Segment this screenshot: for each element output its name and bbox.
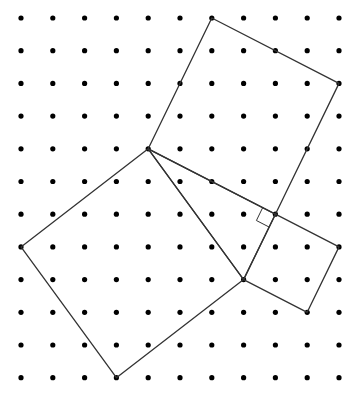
grid-dot	[273, 15, 278, 20]
grid-dot	[241, 48, 246, 53]
grid-dot	[241, 15, 246, 20]
pythagorean-dot-grid-diagram	[0, 0, 361, 398]
grid-dot	[209, 277, 214, 282]
grid-dot	[50, 310, 55, 315]
grid-dot	[177, 48, 182, 53]
grid-dot	[241, 212, 246, 217]
dot-grid	[18, 15, 341, 380]
grid-dot	[177, 15, 182, 20]
grid-dot	[273, 81, 278, 86]
grid-dot	[273, 244, 278, 249]
grid-dot	[82, 81, 87, 86]
grid-dot	[146, 375, 151, 380]
grid-dot	[177, 277, 182, 282]
grid-dot	[18, 342, 23, 347]
grid-dot	[114, 114, 119, 119]
grid-dot	[209, 81, 214, 86]
grid-dot	[18, 179, 23, 184]
grid-dot	[305, 212, 310, 217]
grid-dot	[241, 375, 246, 380]
grid-dot	[18, 277, 23, 282]
grid-dot	[114, 212, 119, 217]
grid-dot	[146, 277, 151, 282]
grid-dot	[241, 179, 246, 184]
grid-dot	[209, 146, 214, 151]
grid-dot	[114, 244, 119, 249]
grid-dot	[177, 310, 182, 315]
grid-dot	[305, 277, 310, 282]
grid-dot	[146, 244, 151, 249]
grid-dot	[336, 15, 341, 20]
grid-dot	[273, 277, 278, 282]
grid-dot	[82, 212, 87, 217]
grid-dot	[177, 212, 182, 217]
grid-dot	[273, 310, 278, 315]
grid-dot	[241, 342, 246, 347]
grid-dot	[82, 375, 87, 380]
grid-dot	[209, 48, 214, 53]
grid-dot	[82, 179, 87, 184]
grid-dot	[241, 244, 246, 249]
grid-dot	[177, 375, 182, 380]
grid-dot	[82, 146, 87, 151]
grid-dot	[114, 48, 119, 53]
grid-dot	[305, 375, 310, 380]
grid-dot	[209, 375, 214, 380]
grid-dot	[336, 342, 341, 347]
grid-dot	[241, 81, 246, 86]
grid-dot	[336, 277, 341, 282]
grid-dot	[146, 15, 151, 20]
grid-dot	[209, 212, 214, 217]
grid-dot	[18, 114, 23, 119]
grid-dot	[114, 146, 119, 151]
grid-dot	[18, 81, 23, 86]
grid-dot	[273, 114, 278, 119]
grid-dot	[50, 375, 55, 380]
grid-dot	[336, 114, 341, 119]
grid-dot	[241, 114, 246, 119]
grid-dot	[114, 179, 119, 184]
grid-dot	[305, 244, 310, 249]
grid-dot	[209, 310, 214, 315]
grid-dot	[82, 310, 87, 315]
grid-dot	[82, 277, 87, 282]
grid-dot	[82, 342, 87, 347]
grid-dot	[18, 146, 23, 151]
grid-dot	[146, 342, 151, 347]
grid-dot	[177, 114, 182, 119]
grid-dot	[209, 114, 214, 119]
grid-dot	[18, 212, 23, 217]
grid-dot	[146, 114, 151, 119]
grid-dot	[114, 81, 119, 86]
grid-dot	[305, 342, 310, 347]
grid-dot	[114, 15, 119, 20]
grid-dot	[82, 48, 87, 53]
grid-dot	[336, 179, 341, 184]
grid-dot	[305, 15, 310, 20]
grid-dot	[177, 179, 182, 184]
grid-dot	[82, 15, 87, 20]
grid-dot	[50, 146, 55, 151]
grid-dot	[50, 48, 55, 53]
grid-dot	[50, 244, 55, 249]
grid-dot	[50, 15, 55, 20]
grid-dot	[305, 114, 310, 119]
grid-dot	[82, 114, 87, 119]
grid-dot	[273, 146, 278, 151]
grid-dot	[18, 48, 23, 53]
grid-dot	[336, 310, 341, 315]
grid-dot	[18, 375, 23, 380]
grid-dot	[305, 179, 310, 184]
shapes	[21, 18, 339, 378]
grid-dot	[305, 48, 310, 53]
grid-dot	[209, 342, 214, 347]
grid-dot	[146, 48, 151, 53]
grid-dot	[146, 81, 151, 86]
grid-dot	[50, 114, 55, 119]
grid-dot	[336, 375, 341, 380]
grid-dot	[114, 342, 119, 347]
grid-dot	[50, 277, 55, 282]
grid-dot	[273, 375, 278, 380]
leg-short-square	[244, 214, 339, 312]
grid-dot	[177, 146, 182, 151]
